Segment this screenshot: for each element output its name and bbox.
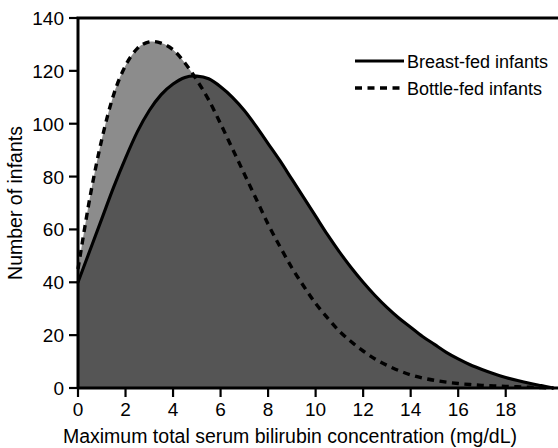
x-axis-title: Maximum total serum bilirubin concentrat… (63, 425, 517, 447)
x-tick-label: 2 (120, 399, 131, 420)
y-tick-label: 80 (43, 167, 64, 188)
y-tick-label: 60 (43, 219, 64, 240)
x-tick-label: 8 (263, 399, 274, 420)
x-tick-label: 10 (305, 399, 326, 420)
x-tick-label: 16 (448, 399, 469, 420)
bilirubin-distribution-chart: 024681012141618 020406080100120140 Maxim… (0, 0, 558, 448)
y-axis-title: Number of infants (4, 126, 26, 280)
y-tick-label: 120 (32, 61, 64, 82)
x-tick-label: 4 (168, 399, 179, 420)
x-tick-label: 14 (400, 399, 422, 420)
legend-label-bottle-fed: Bottle-fed infants (407, 79, 542, 99)
y-tick-label: 0 (53, 378, 64, 399)
legend-label-breast-fed: Breast-fed infants (407, 52, 548, 72)
x-tick-label: 0 (73, 399, 84, 420)
x-tick-label: 18 (495, 399, 516, 420)
x-tick-label: 6 (215, 399, 226, 420)
y-tick-label: 20 (43, 325, 64, 346)
y-tick-label: 40 (43, 272, 64, 293)
y-tick-label: 140 (32, 8, 64, 29)
y-tick-label: 100 (32, 114, 64, 135)
x-tick-label: 12 (353, 399, 374, 420)
